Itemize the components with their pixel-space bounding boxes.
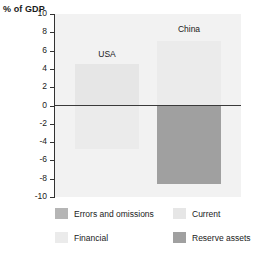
y-axis-ticks: 1086420-2-4-6-8-10 — [0, 14, 54, 198]
y-tick-label: 10 — [38, 8, 47, 19]
y-tick-mark — [50, 124, 54, 125]
legend-swatch — [173, 232, 186, 243]
y-tick-label: 0 — [42, 100, 47, 111]
group-label-china: China — [157, 24, 221, 34]
legend-item-errors-and-omissions[interactable]: Errors and omissions — [55, 208, 154, 219]
y-tick-mark — [50, 32, 54, 33]
y-tick-label: -4 — [39, 136, 47, 147]
legend-label: Reserve assets — [192, 233, 251, 243]
y-tick-label: 6 — [42, 45, 47, 56]
bar-usa-financial — [75, 106, 139, 150]
bar-usa-current — [75, 64, 139, 105]
legend-swatch — [55, 208, 68, 219]
y-tick: 2 — [0, 87, 54, 88]
y-tick-mark — [50, 197, 54, 198]
y-tick-label: 4 — [42, 63, 47, 74]
y-tick-mark — [50, 87, 54, 88]
y-tick: -4 — [0, 142, 54, 143]
y-tick-mark — [50, 69, 54, 70]
y-tick: 8 — [0, 32, 54, 33]
zero-line — [55, 105, 241, 106]
y-tick-mark — [50, 51, 54, 52]
legend-item-reserve-assets[interactable]: Reserve assets — [173, 232, 251, 243]
y-tick-mark — [50, 14, 54, 15]
y-tick-mark — [50, 160, 54, 161]
y-tick: -8 — [0, 179, 54, 180]
legend-label: Current — [192, 209, 220, 219]
plot-area: USAChina — [55, 14, 241, 197]
y-tick: -6 — [0, 160, 54, 161]
y-tick-label: 8 — [42, 26, 47, 37]
y-axis-line — [54, 14, 55, 198]
y-tick-label: -2 — [39, 118, 47, 129]
bar-china-reserve-assets — [157, 106, 221, 185]
legend-item-current[interactable]: Current — [173, 208, 220, 219]
legend-label: Errors and omissions — [74, 209, 154, 219]
legend-label: Financial — [74, 233, 108, 243]
legend-swatch — [55, 232, 68, 243]
legend-swatch — [173, 208, 186, 219]
chart-root: % of GDP USAChina 1086420-2-4-6-8-10 Err… — [0, 0, 260, 260]
y-tick-mark — [50, 142, 54, 143]
legend-item-financial[interactable]: Financial — [55, 232, 108, 243]
y-tick-mark — [50, 106, 54, 107]
group-label-usa: USA — [75, 49, 139, 59]
y-tick: -2 — [0, 124, 54, 125]
y-tick: 10 — [0, 14, 54, 15]
y-tick: -10 — [0, 197, 54, 198]
bar-china-financial — [157, 41, 221, 105]
y-tick-label: -10 — [35, 191, 47, 202]
y-tick: 6 — [0, 51, 54, 52]
y-tick: 0 — [0, 106, 54, 107]
chart-legend: Errors and omissionsCurrentFinancialRese… — [55, 208, 260, 256]
y-tick-label: -6 — [39, 154, 47, 165]
y-tick-label: 2 — [42, 81, 47, 92]
y-tick-mark — [50, 179, 54, 180]
y-tick: 4 — [0, 69, 54, 70]
y-tick-label: -8 — [39, 173, 47, 184]
